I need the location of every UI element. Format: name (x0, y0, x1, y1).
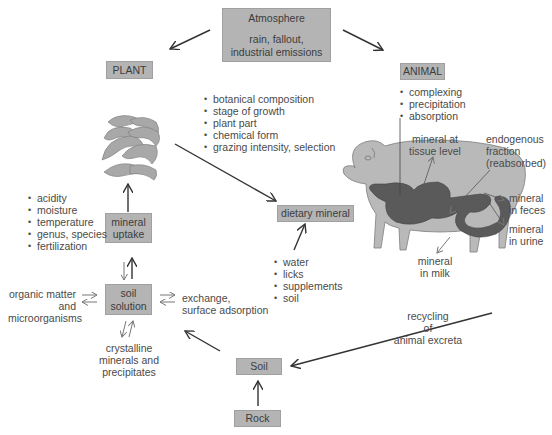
arrow-atmosphere-to-plant (170, 30, 210, 49)
plant-factors-list: botanical composition stage of growth pl… (204, 93, 335, 153)
organic-matter-label: organic matter and microorganisms (8, 288, 76, 324)
mineral-uptake-box: mineral uptake (105, 213, 152, 243)
crystalline-label: crystalline minerals and precipitates (94, 342, 164, 378)
tissue-level-label: mineral at tissue level (402, 133, 468, 157)
soil-factors-list: acidity moisture temperature genus, spec… (28, 192, 107, 252)
plant-box: PLANT (106, 61, 153, 79)
arrow-soil-to-solution (185, 331, 220, 351)
exchange-label: exchange, surface adsorption (182, 292, 268, 316)
dietary-sources-list: water licks supplements soil (274, 256, 343, 304)
animal-box: ANIMAL (400, 63, 445, 80)
recycling-label: recycling of animal excreta (390, 310, 466, 346)
atmosphere-title: Atmosphere (248, 12, 305, 24)
arrow-sources-to-dietary (294, 224, 305, 250)
animal-factors-list: complexing precipitation absorption (400, 86, 466, 122)
feces-label: mineral in feces (509, 192, 545, 216)
atmosphere-box: Atmosphere rain, fallout, industrial emi… (222, 8, 331, 62)
soil-box: Soil (236, 358, 282, 375)
rock-box: Rock (234, 410, 281, 427)
milk-label: mineral in milk (410, 255, 460, 279)
urine-label: mineral in urine (509, 223, 543, 247)
soil-solution-box: soil solution (105, 284, 152, 315)
endogenous-label: endogenous fraction (reabsorbed) (486, 133, 546, 169)
arrow-atmosphere-to-animal (343, 30, 383, 50)
dietary-mineral-box: dietary mineral (277, 205, 354, 222)
plant-illustration (102, 116, 160, 180)
